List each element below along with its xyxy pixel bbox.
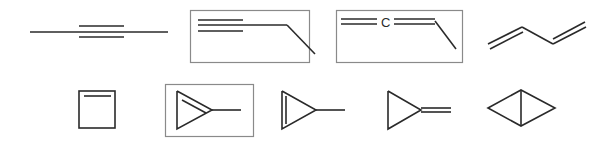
molecule-1-2-butadiene: C	[337, 11, 463, 63]
highlight-box	[191, 11, 310, 63]
carbon-atom-label: C	[381, 15, 390, 30]
molecule-1-3-butadiene	[488, 22, 586, 49]
molecule-1-methylcyclopropene	[166, 85, 254, 137]
molecule-cyclobutene	[79, 91, 115, 128]
molecule-bicyclobutane	[488, 90, 555, 126]
molecule-3-methylcyclopropene	[282, 91, 345, 129]
molecule-methylenecyclopropane	[388, 91, 451, 129]
molecule-2-butyne	[30, 26, 168, 37]
molecule-1-butyne	[191, 11, 316, 63]
isomer-diagram: C	[0, 0, 615, 150]
